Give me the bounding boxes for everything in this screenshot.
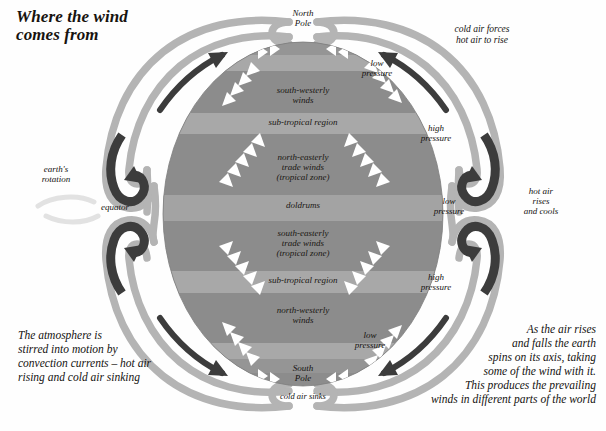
band-label-north-easterly-trade-winds: north-easterly trade winds (tropical zon… xyxy=(243,152,363,182)
band-label-sub-tropical-region-south: sub-tropical region xyxy=(233,275,373,285)
equator-label: equator xyxy=(82,202,148,212)
page-title: Where the wind comes from xyxy=(16,8,196,44)
low-pressure-equator: low pressure xyxy=(420,196,478,216)
earths-rotation-label: earth's rotation xyxy=(20,164,92,184)
annotation-earth-spin: As the air rises and falls the earth spi… xyxy=(330,322,596,406)
diagram-canvas: Where the wind comes from North Pole Sou… xyxy=(0,0,606,431)
annotation-hot-air-rises: hot air rises and cools xyxy=(498,186,584,216)
high-pressure-south: high pressure xyxy=(407,272,465,292)
band-label-sub-tropical-region-north: sub-tropical region xyxy=(233,117,373,127)
south-pole-label: South Pole xyxy=(268,363,338,383)
north-pole-label: North Pole xyxy=(268,8,338,28)
annotation-cold-air-forces: cold air forces hot air to rise xyxy=(420,24,544,45)
band-label-south-easterly-trade-winds: south-easterly trade winds (tropical zon… xyxy=(243,228,363,258)
low-pressure-north: low pressure xyxy=(348,58,406,78)
band-label-south-westerly-winds: south-westerly winds xyxy=(243,85,363,105)
high-pressure-north: high pressure xyxy=(407,123,465,143)
band-label-doldrums: doldrums xyxy=(253,200,353,210)
annotation-atmosphere-convection: The atmosphere is stirred into motion by… xyxy=(18,328,218,384)
